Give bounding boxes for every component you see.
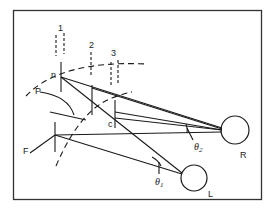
label-P: P — [35, 86, 41, 96]
label-R: R — [240, 150, 247, 160]
border — [14, 11, 125, 100]
label-c: c — [108, 119, 113, 129]
right-eye — [221, 116, 249, 144]
sight-c2-R — [115, 112, 222, 130]
main-frame — [14, 11, 125, 100]
outer-frame — [14, 11, 126, 101]
label-L: L — [208, 189, 213, 199]
box — [14, 11, 125, 100]
arrow-F — [30, 135, 55, 153]
label-rod-2: 2 — [89, 40, 94, 50]
figure-border — [14, 11, 125, 100]
dashed-curve-outer — [26, 64, 146, 96]
theta2-pointer — [187, 128, 193, 140]
arrow-P-2 — [50, 112, 86, 120]
label-theta1: θ1 — [155, 176, 163, 189]
left-eye — [181, 165, 207, 191]
sight-F-R — [55, 132, 222, 135]
sight-F-L — [55, 135, 182, 174]
label-rod-3: 3 — [111, 48, 116, 58]
figure-frame — [14, 11, 125, 101]
label-rod-1: 1 — [58, 23, 63, 33]
arrow-P-1 — [40, 92, 74, 115]
label-n: n — [51, 70, 56, 80]
sight-n-L — [61, 77, 182, 173]
stereo-geometry-diagram: 1 2 3 n P c F θ2 R θ1 L — [0, 0, 274, 213]
diagram-frame — [14, 11, 125, 100]
label-theta2: θ2 — [194, 141, 203, 154]
image-frame — [14, 11, 262, 200]
label-F: F — [23, 146, 29, 156]
frame-rect — [14, 11, 125, 100]
